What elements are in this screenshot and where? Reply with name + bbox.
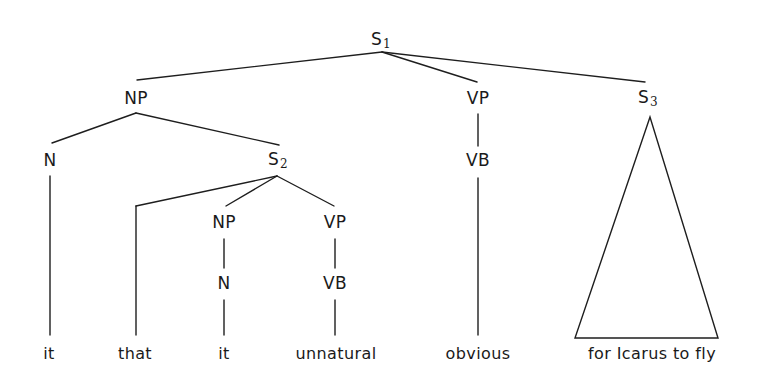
leaf-it: it [43, 346, 55, 362]
node-vp-label: VP [467, 88, 489, 108]
leaf-it-embedded: it [218, 346, 230, 362]
node-s1-subscript: 1 [383, 37, 391, 51]
node-vb-embedded: VB [323, 275, 347, 292]
edge-s1-to-vp [382, 52, 477, 82]
node-n-embedded: N [217, 275, 230, 292]
node-s3: S3 [638, 89, 658, 108]
node-s2-subscript: 2 [280, 157, 288, 171]
node-vp-embedded: VP [324, 214, 346, 231]
node-s1: S1 [371, 31, 391, 50]
edge-np-to-s2 [136, 113, 279, 145]
edge-s2-to-np2 [226, 176, 277, 206]
edge-s1-to-s3 [382, 52, 645, 82]
node-s3-label: S [638, 87, 649, 107]
node-vp: VP [467, 90, 489, 107]
leaf-unnatural: unnatural [295, 346, 376, 362]
edge-np-to-n [52, 113, 136, 143]
edge-s2-to-vp2 [277, 176, 334, 206]
leaf-for-icarus-to-fly: for Icarus to fly [588, 346, 716, 362]
node-vb-embedded-label: VB [323, 273, 347, 293]
syntax-tree-diagram [0, 0, 762, 385]
edge-s2-to-that-elbow [136, 176, 277, 206]
node-np: NP [124, 90, 148, 107]
node-n-embedded-label: N [217, 273, 230, 293]
node-n: N [43, 152, 56, 169]
node-s3-subscript: 3 [650, 95, 658, 109]
node-np-embedded-label: NP [212, 212, 236, 232]
node-np-embedded: NP [212, 214, 236, 231]
node-np-label: NP [124, 88, 148, 108]
leaf-that: that [118, 346, 152, 362]
node-s2-label: S [268, 149, 279, 169]
edge-s1-to-np [137, 52, 382, 80]
leaf-obvious: obvious [446, 346, 511, 362]
node-s2: S2 [268, 151, 288, 170]
node-n-label: N [43, 150, 56, 170]
s3-subtree-triangle [575, 117, 718, 338]
node-vp-embedded-label: VP [324, 212, 346, 232]
node-s1-label: S [371, 29, 382, 49]
node-vb-label: VB [466, 150, 490, 170]
node-vb: VB [466, 152, 490, 169]
